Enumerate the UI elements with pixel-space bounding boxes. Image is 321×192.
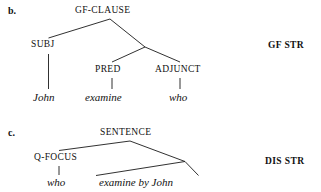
enumerator-c: c. (8, 128, 15, 138)
side-label-dis-str: DIS STR (265, 157, 305, 167)
node-subj: SUBJ (31, 40, 55, 50)
terminal-who-c: who (47, 177, 65, 188)
branch-root-to-mid (110, 19, 145, 47)
terminal-examine: examine (85, 92, 122, 103)
triangle-examine-by-john (96, 162, 199, 176)
node-sentence: SENTENCE (100, 128, 151, 138)
terminal-john: John (33, 92, 54, 103)
branch-sentence-to-qfocus (59, 141, 130, 151)
figure-canvas: b. GF-CLAUSE SUBJ PRED ADJUNCT John exam… (0, 0, 321, 192)
node-q-focus: Q-FOCUS (34, 153, 77, 163)
side-label-gf-str: GF STR (268, 41, 304, 51)
node-pred: PRED (95, 65, 121, 75)
branch-sentence-to-triangle (130, 141, 185, 162)
branch-root-to-subj (49, 19, 111, 38)
node-gf-clause: GF-CLAUSE (75, 6, 130, 16)
enumerator-b: b. (8, 6, 16, 16)
terminal-who-b: who (169, 92, 187, 103)
branch-mid-to-pred (112, 47, 145, 62)
terminal-examine-by-john: examine by John (99, 177, 173, 188)
branch-mid-to-adjunct (145, 47, 180, 62)
node-adjunct: ADJUNCT (155, 65, 201, 75)
